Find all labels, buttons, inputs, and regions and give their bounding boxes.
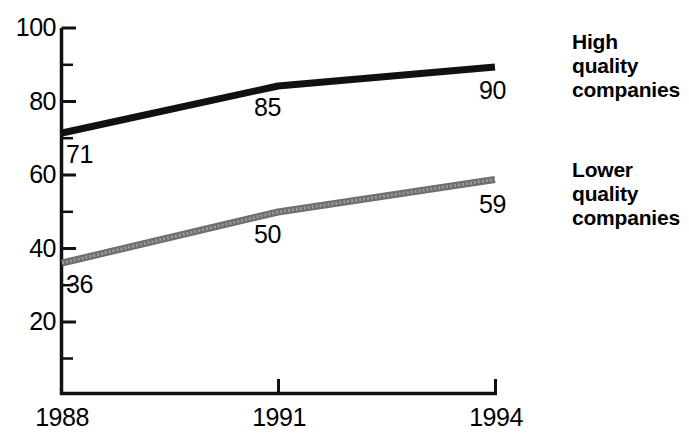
x-axis-ticks	[62, 379, 496, 394]
y-tick-label-80: 80	[0, 89, 56, 114]
series-label-lower-quality: Lower quality companies	[572, 158, 689, 230]
data-label-lower-1988: 36	[66, 272, 93, 297]
data-label-high-1988: 71	[66, 142, 93, 167]
data-label-high-1991: 85	[254, 95, 281, 120]
series-label-high-quality: High quality companies	[572, 30, 689, 102]
y-tick-label-100: 100	[0, 15, 56, 40]
x-tick-label-1988: 1988	[2, 405, 122, 430]
y-tick-label-60: 60	[0, 162, 56, 187]
data-label-lower-1994: 59	[479, 192, 506, 217]
data-label-high-1994: 90	[479, 78, 506, 103]
x-tick-label-1991: 1991	[219, 405, 339, 430]
chart-container: 100 80 60 40 20 1988 1991 1994 71 85 90 …	[0, 0, 689, 448]
y-tick-label-40: 40	[0, 236, 56, 261]
y-tick-label-20: 20	[0, 309, 56, 334]
x-tick-label-1994: 1994	[436, 405, 556, 430]
data-label-lower-1991: 50	[254, 222, 281, 247]
